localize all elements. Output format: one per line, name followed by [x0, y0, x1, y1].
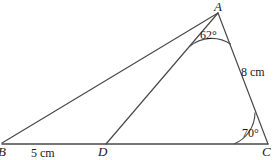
angle-label-acb: 70°	[242, 127, 259, 139]
vertex-label-b: B	[0, 145, 6, 158]
length-label-ac: 8 cm	[241, 66, 265, 78]
diagram-canvas	[0, 0, 277, 160]
vertex-label-c: C	[262, 145, 271, 158]
length-label-bd: 5 cm	[31, 147, 55, 159]
geometry-diagram: A B C D 62° 70° 5 cm 8 cm	[0, 0, 277, 160]
vertex-label-d: D	[98, 145, 107, 158]
segment-ab	[2, 13, 218, 143]
angle-label-dac: 62°	[200, 29, 217, 41]
vertex-label-a: A	[214, 0, 222, 13]
